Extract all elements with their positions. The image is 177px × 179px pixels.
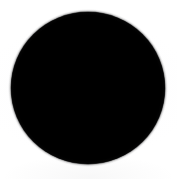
image-canvas xyxy=(0,0,177,179)
black-circle-fill xyxy=(11,12,165,164)
black-circle-shape xyxy=(11,12,165,164)
